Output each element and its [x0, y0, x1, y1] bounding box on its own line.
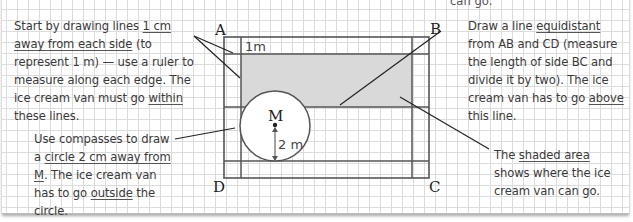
note-bottom-left: Use compasses to draw a circle 2 cm away…: [34, 130, 174, 220]
center-m-label: M: [268, 107, 283, 125]
leader-line-bottom-left: [175, 128, 235, 139]
radius-label: 2 m: [278, 137, 303, 152]
vertex-c-label: C: [429, 178, 440, 196]
one-metre-label: 1m: [245, 39, 266, 54]
note-top-left: Start by drawing lines 1 cm away from ea…: [14, 17, 200, 125]
note-top-right: Draw a line equidistant from AB and CD (…: [468, 17, 628, 125]
vertex-d-label: D: [213, 178, 225, 196]
note-bottom-right: The shaded area shows where the ice crea…: [494, 146, 614, 200]
leader-line-top-left-2: [194, 36, 240, 78]
vertex-a-label: A: [214, 21, 226, 39]
